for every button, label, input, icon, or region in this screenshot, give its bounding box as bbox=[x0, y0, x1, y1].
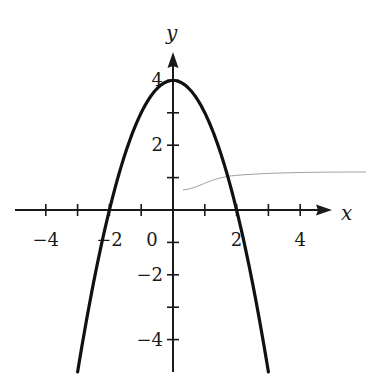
scan-artifact-line bbox=[183, 172, 366, 190]
x-axis-arrow-icon bbox=[316, 205, 332, 216]
y-tick-label: −4 bbox=[136, 329, 163, 350]
x-tick-label: 4 bbox=[294, 229, 305, 250]
x-tick-label: 0 bbox=[146, 229, 157, 250]
y-axis: y bbox=[165, 21, 179, 372]
y-axis-arrow-icon bbox=[168, 52, 179, 68]
x-tick-labels: −4−2024 bbox=[33, 229, 306, 250]
y-tick-label: 2 bbox=[152, 134, 163, 155]
x-axis: x bbox=[15, 201, 352, 225]
x-axis-label: x bbox=[341, 201, 352, 225]
y-axis-label: y bbox=[165, 21, 178, 45]
x-tick-label: −4 bbox=[33, 229, 60, 250]
y-tick-label: −2 bbox=[136, 264, 163, 285]
parabola-chart: x y −4−2024 42−2−4 bbox=[0, 0, 366, 383]
